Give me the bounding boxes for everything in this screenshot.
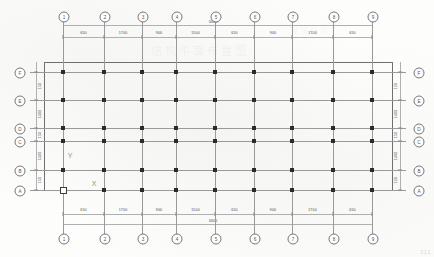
grid-line-horizontal-A bbox=[30, 190, 406, 191]
top-chain-dim-8: 650 bbox=[349, 31, 355, 35]
grid-bubble-right-D[interactable]: D bbox=[414, 124, 425, 135]
grid-line-horizontal-F bbox=[30, 72, 406, 73]
grid-bubble-top-6[interactable]: 6 bbox=[250, 12, 261, 23]
grid-bubble-right-B[interactable]: B bbox=[414, 166, 425, 177]
column-4E bbox=[174, 98, 178, 102]
grid-bubble-bottom-9[interactable]: 9 bbox=[368, 234, 379, 245]
bottom-chain-dim-8: 650 bbox=[349, 208, 355, 212]
right-chain-dim-1: 150 bbox=[394, 83, 398, 89]
right-chain-dim-tick bbox=[398, 141, 402, 142]
column-1F bbox=[61, 70, 65, 74]
bottom-chain-dim-tick bbox=[142, 212, 143, 216]
column-2D bbox=[102, 126, 106, 130]
grid-bubble-left-E[interactable]: E bbox=[15, 96, 26, 107]
column-9D bbox=[370, 126, 374, 130]
grid-bubble-right-E[interactable]: E bbox=[414, 96, 425, 107]
corner-page-mark: 311 bbox=[420, 249, 431, 255]
top-chain-dim-1: 650 bbox=[80, 31, 86, 35]
right-chain-dim-tick bbox=[398, 128, 402, 129]
grid-bubble-bottom-6[interactable]: 6 bbox=[250, 234, 261, 245]
bottom-chain-dim-line bbox=[63, 214, 373, 215]
left-chain-dim-tick bbox=[34, 100, 38, 101]
right-chain-dim-4: 1400 bbox=[394, 151, 398, 160]
grid-bubble-top-5[interactable]: 5 bbox=[211, 12, 222, 23]
left-chain-dim-5: 150 bbox=[38, 177, 42, 183]
left-chain-dim-tick bbox=[34, 190, 38, 191]
grid-bubble-right-F[interactable]: F bbox=[414, 68, 425, 79]
column-5C bbox=[213, 139, 217, 143]
right-chain-dim-tick bbox=[398, 72, 402, 73]
column-9B bbox=[370, 168, 374, 172]
grid-bubble-top-2[interactable]: 2 bbox=[100, 12, 111, 23]
column-4B bbox=[174, 168, 178, 172]
grid-bubble-right-C[interactable]: C bbox=[414, 137, 425, 148]
top-chain-dim-tick bbox=[333, 35, 334, 39]
column-3D bbox=[140, 126, 144, 130]
right-chain-dim-tick bbox=[398, 170, 402, 171]
grid-line-horizontal-D bbox=[30, 128, 406, 129]
grid-bubble-bottom-2[interactable]: 2 bbox=[100, 234, 111, 245]
column-5F bbox=[213, 70, 217, 74]
right-chain-dim-tick bbox=[398, 190, 402, 191]
column-8F bbox=[331, 70, 335, 74]
top-chain-dim-7: 1700 bbox=[308, 31, 317, 35]
left-chain-dim-4: 1400 bbox=[38, 151, 42, 160]
bottom-overall-dim-line bbox=[63, 224, 373, 225]
column-3A bbox=[140, 188, 144, 192]
grid-bubble-top-3[interactable]: 3 bbox=[138, 12, 149, 23]
column-3C bbox=[140, 139, 144, 143]
right-chain-dim-5: 150 bbox=[394, 177, 398, 183]
column-2E bbox=[102, 98, 106, 102]
column-7A bbox=[290, 188, 294, 192]
top-chain-dim-5: 650 bbox=[231, 31, 237, 35]
grid-bubble-bottom-8[interactable]: 8 bbox=[329, 234, 340, 245]
top-chain-dim-tick bbox=[254, 35, 255, 39]
grid-bubble-top-4[interactable]: 4 bbox=[172, 12, 183, 23]
bottom-chain-dim-tick bbox=[372, 212, 373, 216]
column-1E bbox=[61, 98, 65, 102]
grid-bubble-top-1[interactable]: 1 bbox=[59, 12, 70, 23]
column-8B bbox=[331, 168, 335, 172]
grid-bubble-top-9[interactable]: 9 bbox=[368, 12, 379, 23]
column-2C bbox=[102, 139, 106, 143]
grid-bubble-bottom-1[interactable]: 1 bbox=[59, 234, 70, 245]
top-chain-dim-tick bbox=[104, 35, 105, 39]
column-6F bbox=[252, 70, 256, 74]
top-chain-dim-tick bbox=[215, 35, 216, 39]
left-chain-dim-1: 150 bbox=[38, 83, 42, 89]
grid-bubble-top-8[interactable]: 8 bbox=[329, 12, 340, 23]
column-2B bbox=[102, 168, 106, 172]
grid-bubble-left-B[interactable]: B bbox=[15, 166, 26, 177]
column-9A bbox=[370, 188, 374, 192]
grid-bubble-left-C[interactable]: C bbox=[15, 137, 26, 148]
bottom-chain-dim-tick bbox=[333, 212, 334, 216]
y-axis-label: Y bbox=[68, 152, 73, 159]
column-6C bbox=[252, 139, 256, 143]
bottom-chain-dim-2: 1700 bbox=[119, 208, 128, 212]
origin-marker bbox=[60, 187, 67, 194]
bottom-chain-dim-tick bbox=[176, 212, 177, 216]
grid-line-horizontal-B bbox=[30, 170, 406, 171]
right-chain-dim-2: 1400 bbox=[394, 110, 398, 119]
grid-bubble-bottom-7[interactable]: 7 bbox=[288, 234, 299, 245]
top-chain-dim-3: 900 bbox=[156, 31, 162, 35]
grid-bubble-bottom-4[interactable]: 4 bbox=[172, 234, 183, 245]
column-8C bbox=[331, 139, 335, 143]
bottom-chain-dim-7: 1700 bbox=[308, 208, 317, 212]
top-chain-dim-tick bbox=[142, 35, 143, 39]
grid-bubble-top-7[interactable]: 7 bbox=[288, 12, 299, 23]
grid-bubble-left-A[interactable]: A bbox=[15, 186, 26, 197]
right-chain-dim-tick bbox=[398, 100, 402, 101]
grid-bubble-bottom-5[interactable]: 5 bbox=[211, 234, 222, 245]
grid-bubble-bottom-3[interactable]: 3 bbox=[138, 234, 149, 245]
top-chain-dim-tick bbox=[292, 35, 293, 39]
grid-bubble-left-D[interactable]: D bbox=[15, 124, 26, 135]
grid-bubble-left-F[interactable]: F bbox=[15, 68, 26, 79]
top-chain-dim-4: 1500 bbox=[191, 31, 200, 35]
column-3F bbox=[140, 70, 144, 74]
left-chain-dim-tick bbox=[34, 170, 38, 171]
column-7F bbox=[290, 70, 294, 74]
column-5E bbox=[213, 98, 217, 102]
grid-bubble-right-A[interactable]: A bbox=[414, 186, 425, 197]
top-chain-dim-line bbox=[63, 37, 373, 38]
